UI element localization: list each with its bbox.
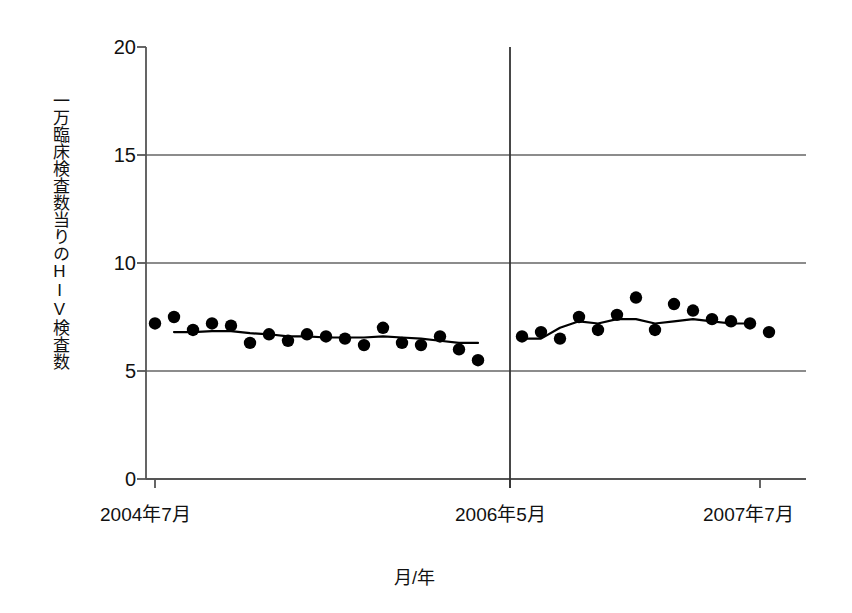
gridlines	[146, 155, 806, 371]
data-point	[763, 326, 775, 338]
data-point	[263, 328, 275, 340]
data-point	[516, 330, 528, 342]
data-point	[396, 337, 408, 349]
axis-lines	[137, 47, 806, 488]
chart-figure: 一万臨床検査数当りのHIV検査数 20 15 10 5 0 2004年7月 20…	[0, 0, 852, 613]
data-point	[320, 330, 332, 342]
data-point	[611, 309, 623, 321]
data-point	[472, 354, 484, 366]
data-point	[225, 319, 237, 331]
data-point	[554, 332, 566, 344]
data-point	[573, 311, 585, 323]
data-point	[168, 311, 180, 323]
data-point	[244, 337, 256, 349]
data-markers	[149, 291, 775, 366]
data-point	[301, 328, 313, 340]
data-point	[744, 317, 756, 329]
data-point	[282, 335, 294, 347]
data-point	[535, 326, 547, 338]
data-point	[453, 343, 465, 355]
data-point	[434, 330, 446, 342]
data-point	[339, 332, 351, 344]
data-point	[687, 304, 699, 316]
plot-canvas	[0, 0, 852, 613]
data-point	[187, 324, 199, 336]
data-point	[630, 291, 642, 303]
data-point	[706, 313, 718, 325]
data-point	[725, 315, 737, 327]
data-point	[592, 324, 604, 336]
trend-lines	[174, 319, 750, 343]
data-point	[649, 324, 661, 336]
data-point	[149, 317, 161, 329]
data-point	[358, 339, 370, 351]
data-point	[668, 298, 680, 310]
data-point	[377, 322, 389, 334]
data-point	[415, 339, 427, 351]
data-point	[206, 317, 218, 329]
